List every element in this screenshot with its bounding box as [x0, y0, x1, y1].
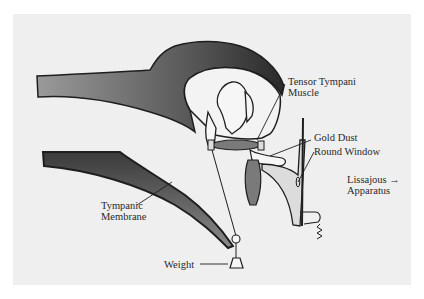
label-weight: Weight [164, 259, 194, 270]
label-round-window: Round Window [314, 146, 380, 157]
upper-canal-shape [37, 42, 284, 139]
label-lissajous-apparatus: Lissajous → Apparatus [347, 174, 400, 196]
label-tympanic-membrane: Tympanic Membrane [101, 200, 146, 222]
tensor-muscle [208, 140, 264, 150]
weight-apparatus [212, 150, 243, 268]
right-arrow-icon: → [389, 174, 400, 185]
label-gold-dust: Gold Dust [314, 132, 357, 143]
cochlea-wall [262, 118, 322, 239]
label-tensor-tympani-muscle: Tensor Tympani Muscle [288, 76, 356, 98]
